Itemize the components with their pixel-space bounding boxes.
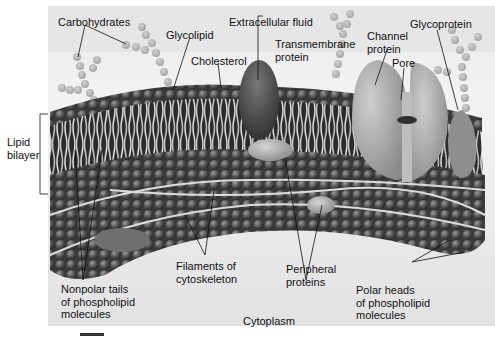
peripheral-protein-3 [94, 228, 150, 252]
label-peripheral-proteins: Peripheral proteins [286, 263, 336, 288]
label-channel-protein: Channel protein [367, 30, 408, 55]
label-lipid-bilayer: Lipid bilayer [7, 136, 39, 161]
label-transmembrane-protein: Transmembrane protein [275, 38, 355, 63]
label-extracellular-fluid: Extracellular fluid [229, 16, 313, 29]
label-glycolipid: Glycolipid [166, 29, 214, 42]
label-glycoprotein: Glycoprotein [410, 18, 472, 31]
transmembrane-protein [239, 60, 279, 140]
scale-bar [80, 333, 104, 336]
lipid-bilayer-bracket [40, 114, 48, 194]
label-cytoplasm: Cytoplasm [243, 315, 295, 328]
label-polar-heads: Polar heads of phospholipid molecules [356, 284, 430, 322]
label-carbohydrates: Carbohydrates [58, 16, 130, 29]
peripheral-protein-1 [248, 139, 292, 161]
label-cholesterol: Cholesterol [191, 55, 247, 68]
label-filaments-of-cytoskeleton: Filaments of cytoskeleton [176, 260, 237, 285]
label-nonpolar-tails: Nonpolar tails of phospholipid molecules [61, 283, 135, 321]
label-pore: Pore [392, 57, 415, 70]
pore [402, 92, 412, 182]
